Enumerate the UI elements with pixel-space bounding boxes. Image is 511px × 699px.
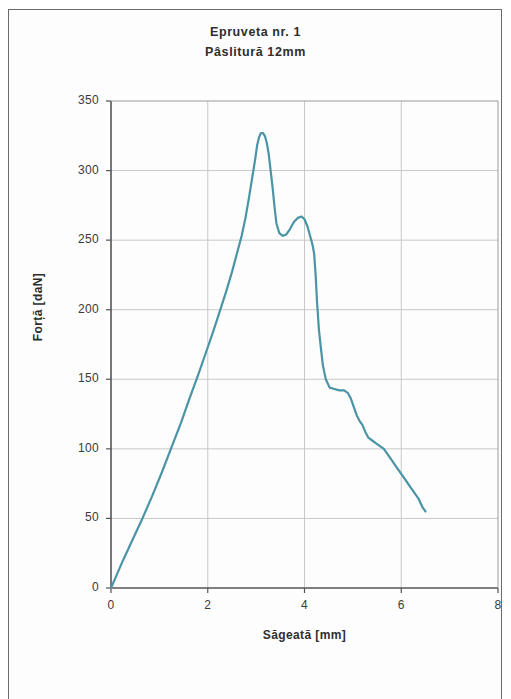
series-line-0	[111, 133, 425, 588]
y-tick-label: 250	[59, 232, 99, 246]
x-tick-label: 2	[188, 598, 228, 612]
x-tick-label: 8	[478, 598, 511, 612]
y-tick-label: 200	[59, 302, 99, 316]
data-series	[111, 133, 425, 588]
y-tick-label: 150	[59, 371, 99, 385]
x-tick-label: 6	[381, 598, 421, 612]
y-tick-label: 0	[59, 580, 99, 594]
x-tick-label: 4	[285, 598, 325, 612]
x-tick-label: 0	[91, 598, 131, 612]
y-tick-label: 100	[59, 441, 99, 455]
tick-marks	[106, 101, 498, 593]
x-axis-label: Săgeată [mm]	[111, 628, 498, 642]
y-tick-label: 300	[59, 163, 99, 177]
y-axis-label: Forță [daN]	[31, 247, 45, 367]
y-tick-label: 50	[59, 510, 99, 524]
gridlines	[111, 101, 498, 588]
y-tick-label: 350	[59, 93, 99, 107]
